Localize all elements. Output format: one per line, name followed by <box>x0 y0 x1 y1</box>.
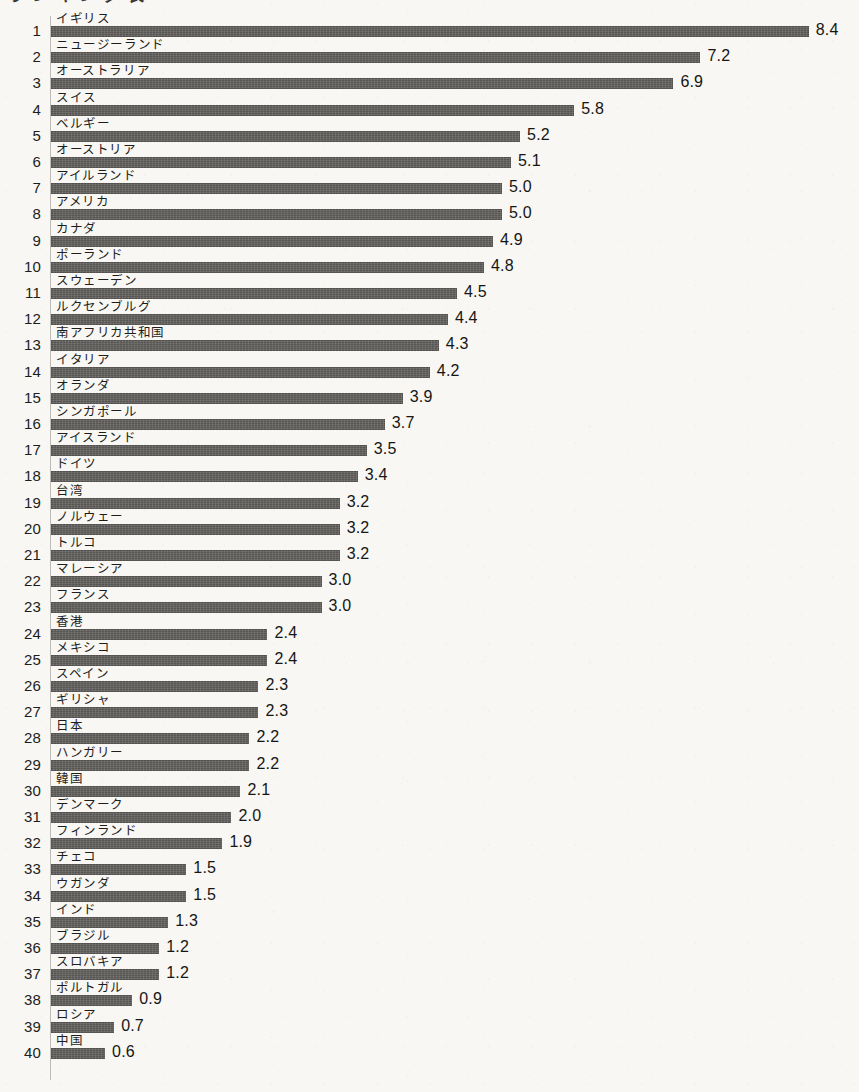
bar <box>51 838 222 849</box>
category-label: 南アフリカ共和国 <box>56 326 165 339</box>
category-label: 日本 <box>56 719 83 732</box>
bar <box>51 524 340 535</box>
category-label: ギリシャ <box>56 693 110 706</box>
value-label: 2.2 <box>256 729 279 745</box>
bar-row: 8アメリカ5.0 <box>0 195 859 221</box>
value-label: 2.3 <box>265 703 288 719</box>
bar-row: 18ドイツ3.4 <box>0 457 859 483</box>
value-label: 5.8 <box>581 101 604 117</box>
rank-number: 38 <box>0 992 41 1007</box>
bar-row: 15オランダ3.9 <box>0 379 859 405</box>
bar-row: 19台湾3.2 <box>0 484 859 510</box>
bar-row: 32フィンランド1.9 <box>0 824 859 850</box>
category-label: 韓国 <box>56 772 83 785</box>
rank-number: 21 <box>0 547 41 562</box>
rank-number: 17 <box>0 442 41 457</box>
rank-number: 9 <box>0 233 41 248</box>
value-label: 5.2 <box>527 127 550 143</box>
category-label: オランダ <box>56 379 110 392</box>
bar-row: 23フランス3.0 <box>0 588 859 614</box>
category-label: マレーシア <box>56 562 124 575</box>
bar <box>51 812 231 823</box>
bar <box>51 393 403 404</box>
rank-number: 11 <box>0 285 41 300</box>
category-label: フランス <box>56 588 110 601</box>
bar <box>51 183 502 194</box>
bar-row: 9カナダ4.9 <box>0 222 859 248</box>
value-label: 1.5 <box>193 860 216 876</box>
bar <box>51 995 132 1006</box>
bar <box>51 131 520 142</box>
bar <box>51 655 267 666</box>
bar-row: 33チェコ1.5 <box>0 850 859 876</box>
category-label: ロシア <box>56 1008 97 1021</box>
rank-number: 22 <box>0 573 41 588</box>
category-label: インド <box>56 903 97 916</box>
category-label: ブラジル <box>56 929 110 942</box>
bar <box>51 288 457 299</box>
bar <box>51 236 493 247</box>
rank-number: 29 <box>0 757 41 772</box>
bar <box>51 602 322 613</box>
rank-number: 16 <box>0 416 41 431</box>
bar <box>51 943 159 954</box>
category-label: フィンランド <box>56 824 138 837</box>
category-label: スイス <box>56 91 97 104</box>
value-label: 1.2 <box>166 939 189 955</box>
bar <box>51 340 439 351</box>
bar <box>51 969 159 980</box>
bar-row: 22マレーシア3.0 <box>0 562 859 588</box>
bar-row: 38ポルトガル0.9 <box>0 981 859 1007</box>
bar-row: 6オーストリア5.1 <box>0 143 859 169</box>
cropped-title-text: ランキング表 <box>8 0 151 4</box>
bar <box>51 419 385 430</box>
category-label: ウガンダ <box>56 877 110 890</box>
category-label: トルコ <box>56 536 97 549</box>
bar-row: 4スイス5.8 <box>0 91 859 117</box>
bar-row: 1イギリス8.4 <box>0 12 859 38</box>
value-label: 5.0 <box>509 205 532 221</box>
rank-number: 32 <box>0 835 41 850</box>
value-label: 4.5 <box>464 284 487 300</box>
rank-number: 39 <box>0 1019 41 1034</box>
chart-page: ランキング表 1イギリス8.42ニュージーランド7.23オーストラリア6.94ス… <box>0 0 859 1092</box>
bar-row: 21トルコ3.2 <box>0 536 859 562</box>
bar <box>51 681 258 692</box>
rank-number: 10 <box>0 259 41 274</box>
category-label: ドイツ <box>56 457 97 470</box>
category-label: オーストリア <box>56 143 137 156</box>
bar <box>51 498 340 509</box>
bar-row: 31デンマーク2.0 <box>0 798 859 824</box>
value-label: 1.9 <box>229 834 252 850</box>
value-label: 5.1 <box>518 153 541 169</box>
value-label: 5.0 <box>509 179 532 195</box>
bar-row: 7アイルランド5.0 <box>0 169 859 195</box>
value-label: 3.0 <box>329 572 352 588</box>
value-label: 1.2 <box>166 965 189 981</box>
rank-number: 8 <box>0 206 41 221</box>
bar-row: 11スウェーデン4.5 <box>0 274 859 300</box>
category-label: スウェーデン <box>56 274 138 287</box>
bar <box>51 262 484 273</box>
bar-row: 40中国0.6 <box>0 1034 859 1060</box>
bar-row: 39ロシア0.7 <box>0 1008 859 1034</box>
value-label: 2.2 <box>256 756 279 772</box>
value-label: 3.2 <box>347 520 370 536</box>
bar <box>51 733 249 744</box>
category-label: メキシコ <box>56 641 110 654</box>
bar <box>51 26 809 37</box>
bar <box>51 891 186 902</box>
bar-row: 27ギリシャ2.3 <box>0 693 859 719</box>
category-label: 台湾 <box>56 484 83 497</box>
bar-row: 34ウガンダ1.5 <box>0 877 859 903</box>
bar <box>51 786 240 797</box>
bar-row: 35インド1.3 <box>0 903 859 929</box>
category-label: ハンガリー <box>56 746 124 759</box>
category-label: スペイン <box>56 667 109 680</box>
bar-row: 20ノルウェー3.2 <box>0 510 859 536</box>
cropped-title-remnant: ランキング表 <box>0 0 859 11</box>
rank-number: 18 <box>0 468 41 483</box>
category-label: カナダ <box>56 222 97 235</box>
rank-number: 23 <box>0 599 41 614</box>
category-label: 中国 <box>56 1034 83 1047</box>
